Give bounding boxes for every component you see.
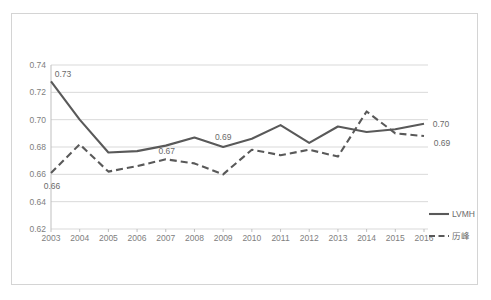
data-point-label: 0.67 [158,146,175,156]
x-axis-tick-label: 2010 [242,233,261,243]
line-chart: 0.620.640.660.680.700.720.74 20032004200… [0,0,491,300]
legend-label: LVMH [452,209,475,219]
y-axis-tick-label: 0.64 [29,197,46,207]
gridlines [51,65,428,229]
x-axis-tick-label: 2016 [415,233,434,243]
chart-legend: LVMH历峰 [429,209,475,241]
x-axis-tick-label: 2007 [156,233,175,243]
x-axis-tick-label: 2009 [214,233,233,243]
data-point-label: 0.69 [434,138,451,148]
y-axis-tick-label: 0.72 [29,87,46,97]
x-axis-tick-label: 2005 [99,233,118,243]
data-point-label: 0.69 [215,132,232,142]
data-point-label: 0.73 [55,69,72,79]
y-axis-tick-label: 0.68 [29,142,46,152]
y-axis-tick-label: 0.66 [29,169,46,179]
x-axis-tick-label: 2013 [328,233,347,243]
x-axis-tick-label: 2008 [185,233,204,243]
series-lines [51,81,424,174]
data-point-label: 0.66 [44,181,61,191]
y-axis-tick-label: 0.70 [29,115,46,125]
data-point-label: 0.70 [433,119,450,129]
x-axis-tick-label: 2004 [70,233,89,243]
x-axis-tick-label: 2014 [357,233,376,243]
x-axis-tick-labels: 2003200420052006200720082009201020112012… [42,233,434,243]
y-axis-tick-labels: 0.620.640.660.680.700.720.74 [29,60,46,234]
y-axis-tick-label: 0.74 [29,60,46,70]
x-axis-tick-label: 2015 [386,233,405,243]
x-axis-tick-label: 2003 [42,233,61,243]
x-axis-tick-label: 2012 [300,233,319,243]
x-axis-tick-label: 2011 [271,233,290,243]
x-axis-tick-label: 2006 [128,233,147,243]
legend-label: 历峰 [452,231,470,241]
